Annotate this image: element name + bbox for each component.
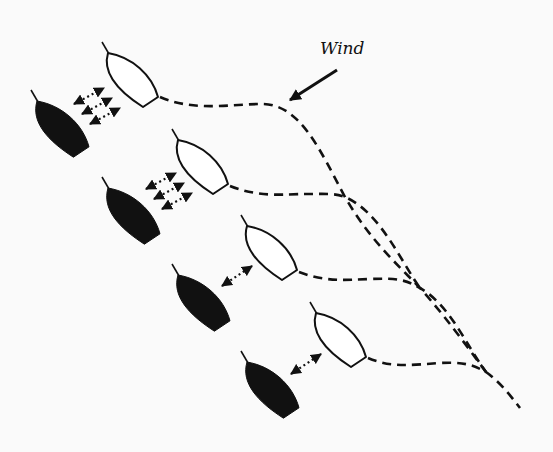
double-arrow-icon (74, 88, 104, 104)
double-arrow-icon (154, 183, 184, 199)
hull (177, 140, 228, 194)
bowsprit (172, 264, 179, 276)
double-arrow-icon (222, 266, 252, 286)
bowsprit (102, 177, 109, 189)
double-arrow-icon (146, 173, 176, 189)
bowsprit (31, 90, 38, 102)
white-boat-1 (102, 42, 158, 107)
wind-arrow-icon (290, 70, 337, 100)
double-arrow-icon (291, 354, 321, 374)
black-boat-3 (172, 264, 230, 331)
double-arrow-icon (82, 98, 112, 114)
double-arrow-icon (90, 108, 120, 124)
boats (31, 42, 366, 418)
hull (246, 226, 297, 280)
white-boat-4 (310, 302, 366, 367)
hull (177, 275, 230, 331)
interaction-arrows (74, 88, 321, 374)
hull (246, 362, 299, 418)
black-boat-4 (241, 351, 299, 418)
hull (107, 53, 158, 107)
bowsprit (241, 351, 248, 363)
black-boat-1 (31, 90, 89, 157)
wake-paths (160, 97, 520, 408)
diagram-canvas (0, 0, 553, 452)
white-boat-3 (241, 215, 297, 280)
wind-shadow-diagram: Wind (0, 0, 553, 452)
hull (315, 313, 366, 367)
hull (36, 101, 89, 157)
hull (107, 188, 160, 244)
wake-4 (368, 358, 520, 408)
double-arrow-icon (162, 193, 192, 209)
